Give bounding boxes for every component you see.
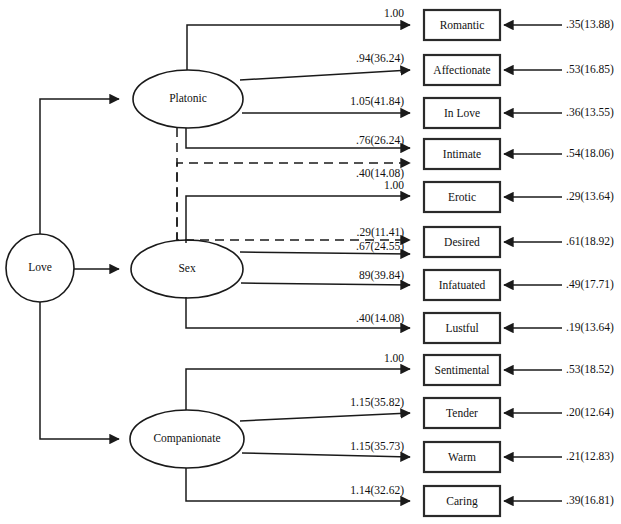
- indicator-label: In Love: [444, 107, 480, 119]
- indicator-label: Romantic: [440, 19, 485, 31]
- indicator-tender[interactable]: Tender: [424, 398, 500, 428]
- coef-platonic-inlove: 1.05(41.84): [350, 95, 404, 108]
- indicator-label: Sentimental: [435, 364, 490, 376]
- indicator-erotic[interactable]: Erotic: [424, 182, 500, 212]
- indicator-warm[interactable]: Warm: [424, 442, 500, 472]
- node-companionate[interactable]: Companionate: [130, 410, 244, 468]
- indicator-in-love[interactable]: In Love: [424, 98, 500, 128]
- error-label-erotic: .29(13.64): [566, 190, 614, 203]
- error-label-inlove: .36(13.55): [566, 106, 614, 119]
- indicator-affectionate[interactable]: Affectionate: [424, 55, 500, 85]
- node-love[interactable]: Love: [6, 234, 74, 302]
- companionate-label: Companionate: [153, 432, 220, 445]
- indicator-label: Tender: [446, 407, 478, 419]
- canvas-background: [0, 0, 621, 524]
- error-label-infatuated: .49(17.71): [566, 278, 614, 291]
- error-label-lustful: .19(13.64): [566, 321, 614, 334]
- love-label: Love: [28, 261, 52, 273]
- error-label-sentimental: .53(18.52): [566, 363, 614, 376]
- node-platonic[interactable]: Platonic: [133, 70, 243, 128]
- coef-sex-lustful: .40(14.08): [356, 312, 404, 325]
- coef-sex-erotic: 1.00: [384, 179, 404, 191]
- indicator-label: Affectionate: [433, 64, 490, 76]
- indicator-label: Caring: [446, 495, 478, 508]
- error-label-desired: .61(18.92): [566, 235, 614, 248]
- sex-label: Sex: [178, 262, 196, 274]
- error-label-romantic: .35(13.88): [566, 18, 614, 31]
- error-label-affectionate: .53(16.85): [566, 63, 614, 76]
- indicator-label: Lustful: [445, 322, 478, 334]
- coef-companionate-caring: 1.14(32.62): [350, 484, 404, 497]
- error-label-warm: .21(12.83): [566, 450, 614, 463]
- indicator-desired[interactable]: Desired: [424, 227, 500, 257]
- indicator-label: Infatuated: [439, 279, 486, 291]
- sem-path-diagram: Love Platonic Sex Companionate 1: [0, 0, 621, 524]
- indicator-lustful[interactable]: Lustful: [424, 313, 500, 343]
- indicator-label: Intimate: [443, 148, 481, 160]
- coef-sex-desired: .67(24.55): [356, 240, 404, 253]
- coef-companionate-sentimental: 1.00: [384, 352, 404, 364]
- error-label-caring: .39(16.81): [566, 494, 614, 507]
- node-sex[interactable]: Sex: [131, 240, 243, 298]
- indicator-romantic[interactable]: Romantic: [424, 10, 500, 40]
- error-label-intimate: .54(18.06): [566, 147, 614, 160]
- coef-platonic-desired: .29(11.41): [357, 226, 405, 239]
- coef-companionate-tender: 1.15(35.82): [350, 396, 404, 409]
- indicator-label: Warm: [448, 451, 476, 463]
- indicator-label: Erotic: [448, 191, 476, 203]
- indicator-infatuated[interactable]: Infatuated: [424, 270, 500, 300]
- indicator-caring[interactable]: Caring: [424, 486, 500, 516]
- platonic-label: Platonic: [169, 92, 207, 104]
- coef-platonic-intimate: .76(26.24): [356, 134, 404, 147]
- coef-companionate-warm: 1.15(35.73): [350, 440, 404, 453]
- indicator-label: Desired: [444, 236, 480, 248]
- coef-sex-infatuated: 89(39.84): [359, 269, 404, 282]
- indicator-intimate[interactable]: Intimate: [424, 139, 500, 169]
- coef-platonic-affectionate: .94(36.24): [356, 52, 404, 65]
- indicator-sentimental[interactable]: Sentimental: [424, 355, 500, 385]
- error-label-tender: .20(12.64): [566, 406, 614, 419]
- coef-platonic-romantic: 1.00: [384, 7, 404, 19]
